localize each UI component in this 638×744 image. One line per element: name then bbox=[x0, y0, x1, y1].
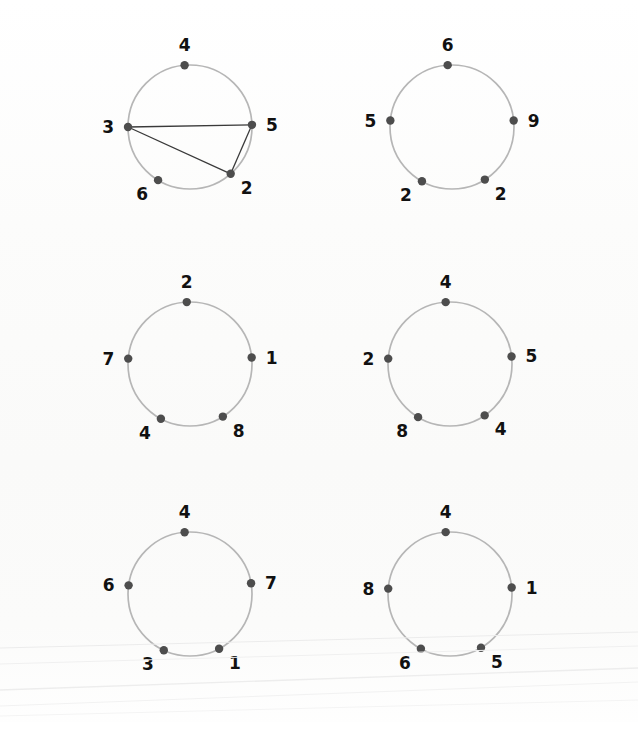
graph-node[interactable] bbox=[480, 411, 488, 419]
circle-outline bbox=[388, 532, 512, 656]
node-label: 6 bbox=[442, 35, 454, 55]
node-label: 7 bbox=[102, 349, 114, 369]
graph-node[interactable] bbox=[124, 354, 132, 362]
graph-node[interactable] bbox=[509, 116, 517, 124]
figure-canvas: 452636922521847454824713641568 bbox=[0, 0, 638, 744]
graph-node[interactable] bbox=[477, 643, 485, 651]
graph-node[interactable] bbox=[441, 528, 449, 536]
graph-node[interactable] bbox=[441, 298, 449, 306]
node-label: 6 bbox=[103, 575, 115, 595]
graph-node[interactable] bbox=[215, 645, 223, 653]
chord-edge-3-5 bbox=[128, 125, 252, 127]
node-label: 4 bbox=[179, 502, 191, 522]
node-label: 6 bbox=[136, 184, 148, 204]
circle-graph-3: 21847 bbox=[102, 272, 277, 443]
graph-node[interactable] bbox=[414, 413, 422, 421]
node-label: 2 bbox=[181, 272, 193, 292]
graph-node[interactable] bbox=[219, 412, 227, 420]
graph-node[interactable] bbox=[386, 116, 394, 124]
node-label: 1 bbox=[526, 578, 538, 598]
circle-graph-1: 45263 bbox=[102, 35, 278, 204]
circle-outline bbox=[128, 302, 252, 426]
graph-node[interactable] bbox=[247, 353, 255, 361]
graph-node[interactable] bbox=[507, 583, 515, 591]
node-label: 7 bbox=[265, 573, 277, 593]
node-label: 4 bbox=[179, 35, 191, 55]
node-label: 1 bbox=[266, 348, 278, 368]
graph-node[interactable] bbox=[154, 176, 162, 184]
circle-graph-2: 69225 bbox=[364, 35, 539, 205]
node-label: 8 bbox=[362, 579, 374, 599]
node-label: 4 bbox=[440, 272, 452, 292]
node-label: 8 bbox=[396, 421, 408, 441]
graph-node[interactable] bbox=[183, 298, 191, 306]
node-label: 3 bbox=[102, 117, 114, 137]
graph-node[interactable] bbox=[180, 528, 188, 536]
graph-node[interactable] bbox=[247, 579, 255, 587]
node-label: 5 bbox=[364, 111, 376, 131]
graph-node[interactable] bbox=[417, 645, 425, 653]
circle-outline bbox=[388, 302, 512, 426]
circle-graph-panels: 452636922521847454824713641568 bbox=[0, 0, 638, 744]
node-label: 3 bbox=[142, 654, 154, 674]
graph-node[interactable] bbox=[384, 584, 392, 592]
graph-node[interactable] bbox=[157, 415, 165, 423]
graph-node[interactable] bbox=[418, 177, 426, 185]
node-label: 2 bbox=[362, 349, 374, 369]
circle-outline bbox=[390, 65, 514, 189]
node-label: 4 bbox=[440, 502, 452, 522]
node-label: 5 bbox=[526, 346, 538, 366]
node-label: 6 bbox=[399, 653, 411, 673]
graph-node[interactable] bbox=[226, 170, 234, 178]
node-label: 8 bbox=[233, 421, 245, 441]
graph-node[interactable] bbox=[507, 352, 515, 360]
graph-node[interactable] bbox=[384, 354, 392, 362]
graph-node[interactable] bbox=[124, 581, 132, 589]
graph-node[interactable] bbox=[124, 123, 132, 131]
node-label: 2 bbox=[495, 184, 507, 204]
node-label: 5 bbox=[266, 115, 278, 135]
circle-outline bbox=[128, 532, 252, 656]
node-label: 5 bbox=[491, 652, 503, 672]
circle-graph-5: 47136 bbox=[103, 502, 277, 674]
node-label: 2 bbox=[241, 178, 253, 198]
node-label: 9 bbox=[528, 111, 540, 131]
graph-node[interactable] bbox=[180, 61, 188, 69]
node-label: 2 bbox=[400, 185, 412, 205]
circle-graph-4: 45482 bbox=[362, 272, 537, 441]
node-label: 1 bbox=[229, 653, 241, 673]
graph-node[interactable] bbox=[443, 61, 451, 69]
circle-graph-6: 41568 bbox=[362, 502, 537, 673]
graph-node[interactable] bbox=[160, 646, 168, 654]
node-label: 4 bbox=[495, 419, 507, 439]
chord-edge-5-2 bbox=[231, 125, 252, 174]
graph-node[interactable] bbox=[481, 175, 489, 183]
graph-node[interactable] bbox=[248, 121, 256, 129]
node-label: 4 bbox=[139, 423, 151, 443]
